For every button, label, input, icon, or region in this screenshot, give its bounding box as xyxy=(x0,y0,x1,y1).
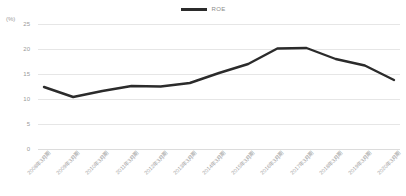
x-tick-label-5: 2013年3月期 xyxy=(173,151,198,176)
series-line-roe xyxy=(44,48,394,97)
plot-area xyxy=(38,24,400,149)
chart-legend: ROE xyxy=(0,6,406,12)
x-tick-label-8: 2016年3月期 xyxy=(260,151,285,176)
y-tick-label-20: 20 xyxy=(23,46,30,52)
x-tick-label-2: 2010年3月期 xyxy=(85,151,110,176)
x-tick-label-12: 2020年3月期 xyxy=(377,151,402,176)
series-layer xyxy=(38,24,400,149)
x-tick-label-1: 2009年3月期 xyxy=(56,151,81,176)
x-tick-label-11: 2019年3月期 xyxy=(348,151,373,176)
x-axis-tick-labels: 2008年3月期2009年3月期2010年3月期2011年3月期2012年3月期… xyxy=(38,149,400,196)
y-tick-label-0: 0 xyxy=(27,146,30,152)
y-axis-tick-labels: 0510152025 xyxy=(0,24,34,149)
x-tick-label-3: 2011年3月期 xyxy=(115,151,140,176)
x-tick-label-7: 2015年3月期 xyxy=(231,151,256,176)
x-tick-label-9: 2017年3月期 xyxy=(289,151,314,176)
legend-label-roe: ROE xyxy=(212,6,226,12)
y-tick-label-10: 10 xyxy=(23,96,30,102)
roe-line-chart: ROE (%) 0510152025 2008年3月期2009年3月期2010年… xyxy=(0,0,406,196)
y-tick-label-25: 25 xyxy=(23,21,30,27)
y-tick-label-15: 15 xyxy=(23,71,30,77)
legend-line-swatch-roe xyxy=(181,8,207,11)
y-tick-label-5: 5 xyxy=(27,121,30,127)
y-axis-unit-label: (%) xyxy=(6,16,15,22)
x-tick-label-0: 2008年3月期 xyxy=(27,151,52,176)
x-tick-label-6: 2014年3月期 xyxy=(202,151,227,176)
x-tick-label-10: 2018年3月期 xyxy=(318,151,343,176)
x-tick-label-4: 2012年3月期 xyxy=(143,151,168,176)
